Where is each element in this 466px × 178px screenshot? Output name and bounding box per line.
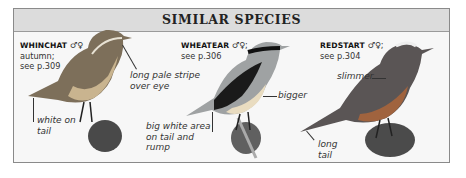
wheatear-area-note: big white areaon tail andrump	[146, 121, 211, 153]
redstart-slimmer-note: slimmer	[337, 71, 373, 82]
whinchat-tail-leader	[33, 98, 34, 122]
wheatear-area-leader	[212, 112, 213, 132]
panel-title: SIMILAR SPECIES	[162, 12, 301, 27]
whinchat-tail-note: white ontail	[37, 115, 76, 136]
redstart-tail-note: longtail	[318, 139, 337, 160]
redstart-slimmer-leader	[372, 78, 386, 79]
wheatear-bigger-leader	[263, 96, 277, 97]
thistle-perch	[88, 120, 122, 152]
